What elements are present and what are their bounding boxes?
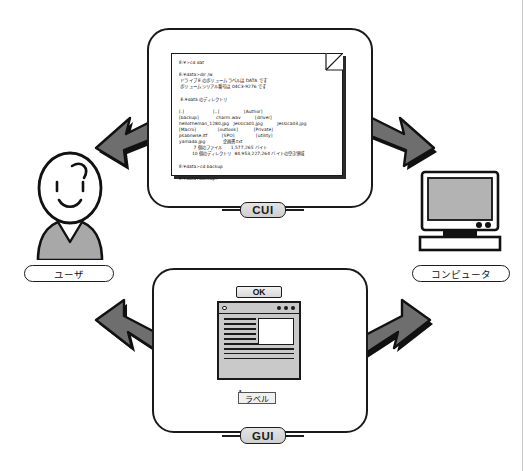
diagram-canvas: E:¥>cd dat E:¥data>dir /w ドライブ E のボリューム … (0, 0, 525, 471)
window-image-placeholder (258, 318, 294, 345)
window-text-line (224, 318, 256, 320)
window-text-line (224, 353, 294, 355)
cui-terminal-document: E:¥>cd dat E:¥data>dir /w ドライブ E のボリューム … (171, 53, 343, 176)
gui-label-chip-connector: GUI (240, 427, 286, 444)
cui-connector-line-right (285, 209, 304, 211)
person-icon (28, 148, 112, 260)
window-content-area (219, 314, 299, 379)
gui-label-chip: ラベル (238, 392, 276, 404)
ok-button[interactable]: OK (236, 286, 282, 298)
window-text-line (224, 348, 294, 350)
window-text-line (224, 358, 294, 360)
computer-label: コンピュータ (412, 265, 510, 282)
window-text-line (224, 323, 256, 325)
mock-application-window (217, 301, 301, 380)
crt-monitor-icon (413, 170, 507, 258)
gui-connector-line-right (285, 435, 304, 437)
page-edge-rule (522, 0, 523, 471)
window-text-line (224, 338, 256, 340)
user-label: ユーザ (24, 265, 114, 282)
gui-connector-line-left (222, 435, 241, 437)
window-text-line (224, 328, 256, 330)
cui-label-chip: CUI (240, 202, 286, 218)
window-control-dots-icon[interactable] (277, 306, 295, 310)
cui-connector-line-left (222, 209, 241, 211)
window-close-dot-icon[interactable] (222, 306, 227, 311)
window-title-bar (219, 303, 299, 314)
terminal-output-text: E:¥>cd dat E:¥data>dir /w ドライブ E のボリューム … (179, 60, 338, 182)
window-text-line (224, 333, 256, 335)
